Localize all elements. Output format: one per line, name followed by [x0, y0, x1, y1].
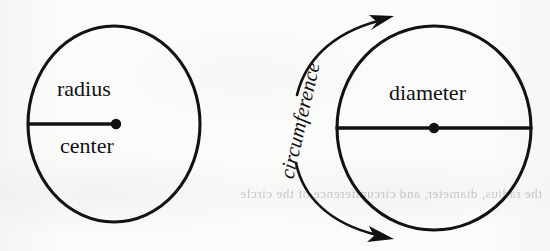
diameter-circle-center-dot	[429, 123, 439, 133]
radius-circle-center-dot	[111, 119, 121, 129]
figure-canvas: the radius, diameter, and circumference …	[0, 0, 550, 251]
diagram-artwork	[0, 0, 550, 251]
center-label: center	[60, 133, 114, 159]
diameter-circle-group	[337, 26, 531, 230]
radius-label: radius	[57, 76, 111, 102]
diameter-label: diameter	[389, 80, 466, 106]
radius-circle-group	[28, 26, 200, 222]
